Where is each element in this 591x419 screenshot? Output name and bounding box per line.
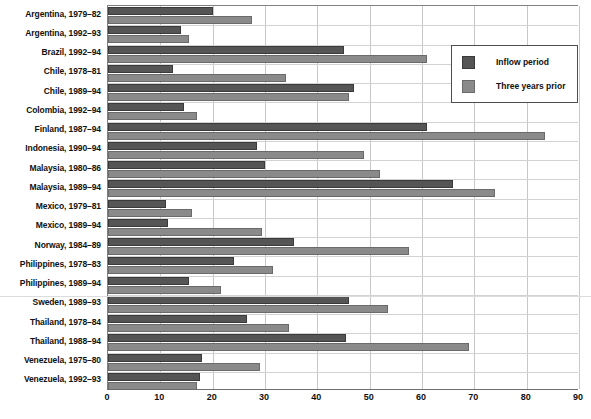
bar-row [108, 237, 578, 256]
bar-inflow-period [108, 200, 166, 208]
gridline-vertical [579, 6, 580, 389]
bar-inflow-period [108, 238, 294, 246]
bar-three-years-prior [108, 305, 388, 313]
bar-row [108, 6, 578, 25]
category-label: Venezuela, 1992–93 [0, 374, 101, 384]
category-label: Argentina, 1979–82 [0, 9, 101, 19]
bar-inflow-period [108, 277, 189, 285]
bar-inflow-period [108, 65, 173, 73]
x-tick-label: 30 [259, 392, 269, 402]
bar-row [108, 372, 578, 391]
bar-three-years-prior [108, 151, 364, 159]
x-tick-label: 0 [104, 392, 109, 402]
bar-row [108, 353, 578, 372]
bar-inflow-period [108, 180, 453, 188]
stray-rule [0, 296, 591, 297]
category-label: Sweden, 1989–93 [0, 297, 101, 307]
bar-inflow-period [108, 46, 344, 54]
category-label: Malaysia, 1980–86 [0, 163, 101, 173]
bar-three-years-prior [108, 209, 192, 217]
bar-three-years-prior [108, 16, 252, 24]
bar-inflow-period [108, 354, 202, 362]
x-tick-label: 90 [573, 392, 583, 402]
category-label: Philippines, 1989–94 [0, 278, 101, 288]
category-label: Norway, 1984–89 [0, 240, 101, 250]
bar-chart: Argentina, 1979–82Argentina, 1992–93Braz… [0, 0, 591, 419]
bar-three-years-prior [108, 247, 409, 255]
bar-row [108, 102, 578, 121]
bar-inflow-period [108, 315, 247, 323]
bar-row [108, 141, 578, 160]
bar-inflow-period [108, 257, 234, 265]
bar-three-years-prior [108, 228, 262, 236]
bar-three-years-prior [108, 324, 289, 332]
category-label: Chile, 1989–94 [0, 86, 101, 96]
bar-three-years-prior [108, 132, 545, 140]
bar-inflow-period [108, 161, 265, 169]
bar-three-years-prior [108, 55, 427, 63]
legend-label: Three years prior [496, 80, 565, 93]
category-label: Argentina, 1992–93 [0, 28, 101, 38]
x-axis-tick-labels: 0102030405060708090 [107, 392, 578, 412]
bar-row [108, 333, 578, 352]
category-label: Finland, 1987–94 [0, 124, 101, 134]
bar-inflow-period [108, 123, 427, 131]
bar-row [108, 199, 578, 218]
bar-three-years-prior [108, 35, 189, 43]
bar-three-years-prior [108, 93, 349, 101]
x-tick-label: 60 [416, 392, 426, 402]
bar-inflow-period [108, 142, 257, 150]
category-label: Brazil, 1992–94 [0, 47, 101, 57]
bar-three-years-prior [108, 382, 197, 390]
x-tick-label: 40 [311, 392, 321, 402]
bar-inflow-period [108, 219, 168, 227]
category-label: Philippines, 1978–83 [0, 259, 101, 269]
bar-three-years-prior [108, 189, 495, 197]
legend-swatch-icon [462, 56, 475, 69]
category-label: Thailand, 1988–94 [0, 336, 101, 346]
bar-inflow-period [108, 7, 213, 15]
bar-three-years-prior [108, 170, 380, 178]
bar-inflow-period [108, 26, 181, 34]
category-label: Malaysia, 1989–94 [0, 182, 101, 192]
x-tick-label: 10 [154, 392, 164, 402]
bar-row [108, 179, 578, 198]
bar-three-years-prior [108, 74, 286, 82]
bar-row [108, 218, 578, 237]
x-tick-label: 80 [521, 392, 531, 402]
bar-inflow-period [108, 84, 354, 92]
category-label: Indonesia, 1990–94 [0, 143, 101, 153]
bar-inflow-period [108, 103, 184, 111]
category-label: Colombia, 1992–94 [0, 105, 101, 115]
bar-row [108, 256, 578, 275]
bar-row [108, 314, 578, 333]
bar-row [108, 25, 578, 44]
bar-three-years-prior [108, 363, 260, 371]
x-tick-label: 20 [207, 392, 217, 402]
category-label: Venezuela, 1975–80 [0, 355, 101, 365]
bar-three-years-prior [108, 286, 221, 294]
bar-row [108, 160, 578, 179]
bar-three-years-prior [108, 112, 197, 120]
legend-swatch-icon [462, 80, 475, 93]
bar-three-years-prior [108, 343, 469, 351]
x-tick-label: 50 [364, 392, 374, 402]
category-label: Thailand, 1978–84 [0, 317, 101, 327]
bar-row [108, 122, 578, 141]
bar-inflow-period [108, 373, 200, 381]
category-label: Mexico, 1989–94 [0, 220, 101, 230]
category-axis-labels: Argentina, 1979–82Argentina, 1992–93Braz… [0, 5, 104, 390]
category-label: Chile, 1978–81 [0, 66, 101, 76]
bar-three-years-prior [108, 266, 273, 274]
bar-inflow-period [108, 334, 346, 342]
legend-label: Inflow period [496, 56, 549, 69]
bar-row [108, 295, 578, 314]
bar-row [108, 276, 578, 295]
category-label: Mexico, 1979–81 [0, 201, 101, 211]
chart-legend: Inflow period Three years prior [451, 45, 578, 103]
x-tick-label: 70 [468, 392, 478, 402]
